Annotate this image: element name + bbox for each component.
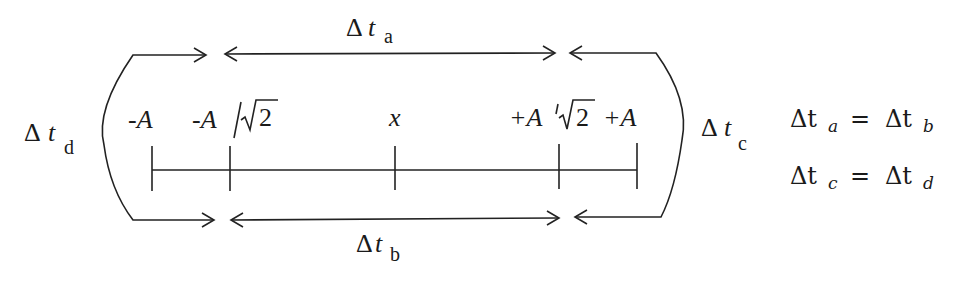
bracket-left-d — [102, 55, 214, 220]
t-symbol: t — [48, 118, 56, 147]
eq1-lhs: Δt — [790, 105, 817, 133]
label-pos-a-root2-numerator: +A — [509, 103, 543, 132]
interval-b-arrow — [231, 218, 559, 220]
oscillation-time-diagram: -A -A 2 x +A 2 +A Δ t a Δ t b Δ t d Δ t … — [0, 0, 960, 281]
subscript-b: b — [390, 243, 400, 265]
delta-symbol: Δ — [346, 13, 363, 42]
label-pos-a-root2: +A 2 — [509, 100, 595, 132]
eq2-rhs: Δt — [885, 162, 912, 190]
label-pos-a-root2-denominator: 2 — [576, 103, 589, 132]
equation-ta-equals-tb: Δt a = Δt b — [790, 105, 934, 136]
label-neg-a-root2-denominator: 2 — [259, 103, 272, 132]
equation-tc-equals-td: Δt c = Δt d — [790, 162, 934, 193]
bracket-right-c — [570, 53, 684, 217]
delta-symbol: Δ — [356, 229, 373, 258]
interval-a-arrow — [225, 53, 555, 54]
eq1-lhs-sub: a — [828, 116, 838, 136]
eq1-equals: = — [850, 105, 870, 133]
label-delta-t-b: Δ t b — [356, 229, 400, 265]
delta-symbol: Δ — [24, 118, 41, 147]
label-delta-t-a: Δ t a — [346, 13, 393, 47]
eq1-rhs: Δt — [885, 105, 912, 133]
delta-symbol: Δ — [701, 113, 718, 142]
subscript-a: a — [384, 25, 393, 47]
label-delta-t-d: Δ t d — [24, 118, 74, 158]
label-pos-a: +A — [603, 103, 637, 132]
t-symbol: t — [375, 229, 383, 258]
eq2-equals: = — [850, 162, 870, 190]
label-neg-a-root2: -A 2 — [192, 100, 278, 138]
t-symbol: t — [724, 113, 732, 142]
eq2-rhs-sub: d — [923, 173, 934, 193]
label-neg-a-root2-numerator: -A — [192, 105, 217, 134]
label-delta-t-c: Δ t c — [701, 113, 747, 154]
fraction-slash-icon — [234, 102, 241, 138]
subscript-c: c — [738, 132, 747, 154]
eq2-lhs-sub: c — [828, 173, 838, 193]
subscript-d: d — [64, 136, 74, 158]
label-neg-a: -A — [128, 105, 153, 134]
fraction-slash-icon — [556, 104, 558, 114]
eq2-lhs: Δt — [790, 162, 817, 190]
eq1-rhs-sub: b — [923, 116, 934, 136]
label-center-x: x — [388, 103, 401, 132]
t-symbol: t — [368, 13, 376, 42]
